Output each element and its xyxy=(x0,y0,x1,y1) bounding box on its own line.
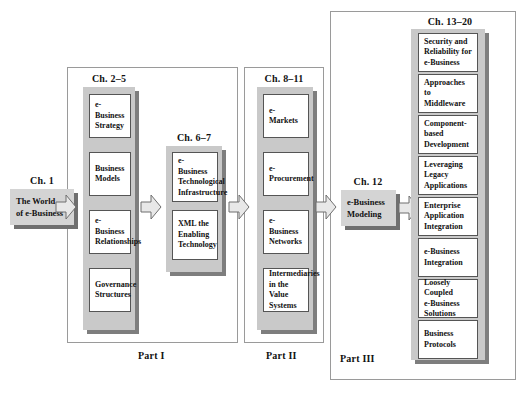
chapter-label-ch-2-5: Ch. 2–5 xyxy=(78,73,140,84)
chapter-label-ch-6-7: Ch. 6–7 xyxy=(163,132,225,143)
item-label: e-Business Integration xyxy=(424,247,472,268)
chapter-label-ch-13-20: Ch. 13–20 xyxy=(414,16,486,27)
modeling-box-label: e-Business Modeling xyxy=(347,196,390,220)
part-label-part-2: Part II xyxy=(266,350,297,361)
item-box-enterprise-application-integration[interactable]: Enterprise Application Integration xyxy=(418,197,478,236)
arrow-ch25-to-ch67 xyxy=(140,194,162,220)
item-box-business-models[interactable]: Business Models xyxy=(89,152,131,196)
item-label: Component- based Development xyxy=(424,119,472,151)
item-box-leveraging-legacy-applications[interactable]: Leveraging Legacy Applications xyxy=(418,156,478,195)
item-label: Business Protocols xyxy=(424,329,472,350)
item-label: e-Markets xyxy=(269,106,303,127)
item-label: e-Business Strategy xyxy=(95,100,125,132)
chapter-label-ch-12: Ch. 12 xyxy=(341,176,395,187)
item-box-business-protocols[interactable]: Business Protocols xyxy=(418,320,478,359)
item-box-ebusiness-strategy[interactable]: e-Business Strategy xyxy=(89,94,131,138)
item-label: e-Business Technological Infrastructure xyxy=(178,156,212,198)
chapter-label-ch-1: Ch. 1 xyxy=(15,175,69,186)
arrow-intro-to-part1 xyxy=(55,194,77,220)
chapter-label-ch-8-11: Ch. 8–11 xyxy=(253,73,315,84)
item-label: Approaches to Middleware xyxy=(424,78,472,110)
part-label-part-1: Part I xyxy=(138,350,164,361)
item-label: XML the Enabling Technology xyxy=(178,219,212,251)
item-label: Security and Reliability for e-Business xyxy=(424,37,472,69)
item-label: Governance Structures xyxy=(95,280,125,301)
item-box-ebusiness-networks[interactable]: e-Business Networks xyxy=(263,210,309,254)
item-box-e-procurement[interactable]: e-Procurement xyxy=(263,152,309,196)
item-label: Business Models xyxy=(95,164,125,185)
item-box-intermediaries-in-value-systems[interactable]: Intermediaries in the Value Systems xyxy=(263,268,309,312)
item-box-ebusiness-technological-infrastructure[interactable]: e-Business Technological Infrastructure xyxy=(172,152,218,202)
item-label: Intermediaries in the Value Systems xyxy=(269,269,303,311)
item-label: Loosely Coupled e-Business Solutions xyxy=(424,278,472,320)
part-label-part-3: Part III xyxy=(340,353,375,364)
arrow-part2-to-ch12 xyxy=(315,194,337,220)
item-label: e-Business Networks xyxy=(269,216,303,248)
item-box-approaches-to-middleware[interactable]: Approaches to Middleware xyxy=(418,74,478,113)
item-label: e-Procurement xyxy=(269,164,303,185)
item-box-xml-enabling-technology[interactable]: XML the Enabling Technology xyxy=(172,210,218,260)
item-box-governance-structures[interactable]: Governance Structures xyxy=(89,268,131,312)
item-box-ebusiness-integration[interactable]: e-Business Integration xyxy=(418,238,478,277)
item-label: Leveraging Legacy Applications xyxy=(424,160,472,192)
modeling-box-ebusiness-modeling[interactable]: e-Business Modeling xyxy=(341,190,396,226)
item-label: Enterprise Application Integration xyxy=(424,201,472,233)
arrow-part1-to-part2 xyxy=(228,194,250,220)
diagram-canvas: Part III Part I Part II Ch. 1 The World … xyxy=(0,0,519,407)
item-box-component-based-development[interactable]: Component- based Development xyxy=(418,115,478,154)
item-box-ebusiness-relationships[interactable]: e-Business Relationships xyxy=(89,210,131,254)
item-box-loosely-coupled-ebusiness-solutions[interactable]: Loosely Coupled e-Business Solutions xyxy=(418,279,478,318)
item-box-security-and-reliability[interactable]: Security and Reliability for e-Business xyxy=(418,33,478,72)
item-label: e-Business Relationships xyxy=(95,216,125,248)
item-box-e-markets[interactable]: e-Markets xyxy=(263,94,309,138)
